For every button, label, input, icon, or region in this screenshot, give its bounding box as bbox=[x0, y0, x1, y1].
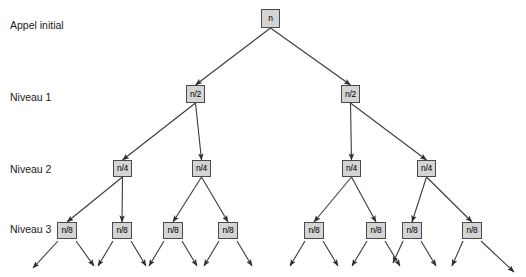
leaf-arrows-group bbox=[33, 241, 514, 272]
tree-node-l3-a[interactable]: n/8 bbox=[57, 222, 77, 239]
leaf-arrow-l3-d-6 bbox=[204, 241, 219, 266]
tree-edge-root-to-l1-b bbox=[271, 28, 351, 85]
tree-node-l3-c[interactable]: n/8 bbox=[163, 222, 183, 239]
leaf-arrow-l3-c-5 bbox=[182, 241, 197, 266]
leaf-arrow-l3-g-12 bbox=[393, 241, 403, 263]
tree-edge-l2-d-to-l3-g bbox=[412, 177, 427, 222]
tree-node-l3-h[interactable]: n/8 bbox=[462, 222, 482, 239]
tree-edge-root-to-l1-a bbox=[196, 28, 271, 85]
leaf-arrow-l3-f-10 bbox=[352, 241, 367, 266]
leaf-arrow-l3-a-1 bbox=[76, 241, 94, 266]
tree-node-l1-a[interactable]: n/2 bbox=[186, 85, 205, 103]
level-label-niveau-2: Niveau 2 bbox=[10, 164, 51, 175]
level-label-appel-initial: Appel initial bbox=[10, 20, 64, 31]
leaf-arrow-l3-d-7 bbox=[237, 241, 252, 266]
tree-edge-l1-b-to-l2-d bbox=[351, 103, 427, 160]
tree-edge-l1-a-to-l2-a bbox=[123, 103, 196, 160]
tree-edge-l2-b-to-l3-d bbox=[202, 177, 229, 222]
level-label-niveau-1: Niveau 1 bbox=[10, 92, 51, 103]
leaf-arrow-l3-b-3 bbox=[131, 241, 146, 266]
tree-edge-l1-b-to-l2-c bbox=[351, 103, 352, 160]
tree-edge-l2-d-to-l3-h bbox=[427, 177, 473, 222]
tree-node-l2-d[interactable]: n/4 bbox=[417, 160, 436, 177]
recursion-tree-diagram: Appel initialNiveau 1Niveau 2Niveau 3 nn… bbox=[0, 0, 526, 277]
leaf-arrow-l3-h-15 bbox=[481, 241, 514, 272]
leaf-arrow-l3-h-14 bbox=[452, 241, 463, 266]
tree-node-l2-a[interactable]: n/4 bbox=[113, 160, 132, 177]
leaf-arrow-l3-b-2 bbox=[98, 241, 113, 266]
leaf-arrow-l3-c-4 bbox=[149, 241, 164, 266]
tree-node-l3-f[interactable]: n/8 bbox=[366, 222, 386, 239]
level-label-niveau-3: Niveau 3 bbox=[10, 224, 51, 235]
tree-node-l2-b[interactable]: n/4 bbox=[192, 160, 211, 177]
tree-edges-layer bbox=[0, 0, 526, 277]
leaf-arrow-l3-e-9 bbox=[323, 241, 338, 266]
tree-node-l3-g[interactable]: n/8 bbox=[402, 222, 422, 239]
tree-edge-l2-b-to-l3-c bbox=[173, 177, 202, 222]
tree-node-l3-e[interactable]: n/8 bbox=[304, 222, 324, 239]
tree-node-l1-b[interactable]: n/2 bbox=[341, 85, 360, 103]
leaf-arrow-l3-e-8 bbox=[290, 241, 305, 266]
edges-group bbox=[67, 28, 472, 222]
tree-edge-l2-c-to-l3-f bbox=[352, 177, 377, 222]
tree-edge-l2-c-to-l3-e bbox=[314, 177, 352, 222]
leaf-arrow-l3-a-0 bbox=[33, 241, 58, 268]
tree-edge-l1-a-to-l2-b bbox=[196, 103, 202, 160]
tree-edge-l2-a-to-l3-a bbox=[67, 177, 123, 222]
tree-node-l2-c[interactable]: n/4 bbox=[342, 160, 361, 177]
tree-node-l3-b[interactable]: n/8 bbox=[112, 222, 132, 239]
tree-node-root[interactable]: n bbox=[261, 9, 280, 28]
tree-node-l3-d[interactable]: n/8 bbox=[218, 222, 238, 239]
tree-edge-l2-a-to-l3-b bbox=[122, 177, 123, 222]
leaf-arrow-l3-g-13 bbox=[421, 241, 436, 266]
